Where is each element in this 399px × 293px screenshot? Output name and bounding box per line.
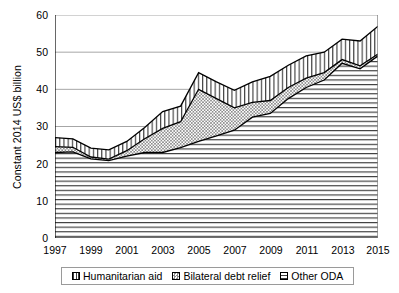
x-tick-label-2009: 2009 bbox=[251, 245, 291, 256]
x-tick-label-2003: 2003 bbox=[143, 245, 183, 256]
x-tick-label-2007: 2007 bbox=[215, 245, 255, 256]
x-tick-label-2015: 2015 bbox=[358, 245, 398, 256]
y-tick-label-50: 50 bbox=[22, 47, 48, 57]
plot-area bbox=[55, 15, 378, 238]
x-tick-label-1997: 1997 bbox=[35, 245, 75, 256]
legend-item-bilateral-debt-relief[interactable]: Bilateral debt relief bbox=[172, 271, 270, 282]
chart-figure: Constant 2014 US$ billion 60 50 40 30 20… bbox=[0, 0, 399, 293]
y-tick-label-20: 20 bbox=[22, 159, 48, 169]
chart-legend: Humanitarian aid Bilateral debt relief O… bbox=[61, 267, 354, 285]
legend-item-humanitarian-aid[interactable]: Humanitarian aid bbox=[72, 271, 162, 282]
y-tick-label-60: 60 bbox=[22, 10, 48, 20]
x-tick-label-2005: 2005 bbox=[179, 245, 219, 256]
x-tick-label-2011: 2011 bbox=[287, 245, 327, 256]
chart-canvas bbox=[55, 15, 378, 238]
vertical-lines-swatch-icon bbox=[72, 272, 80, 280]
y-tick-label-10: 10 bbox=[22, 196, 48, 206]
x-tick-label-2001: 2001 bbox=[107, 245, 147, 256]
y-tick-label-30: 30 bbox=[22, 121, 48, 131]
checker-dots-swatch-icon bbox=[172, 272, 180, 280]
y-tick-label-40: 40 bbox=[22, 84, 48, 94]
legend-label-other-oda: Other ODA bbox=[291, 271, 343, 282]
x-tick-label-2013: 2013 bbox=[323, 245, 363, 256]
legend-label-bilateral-debt-relief: Bilateral debt relief bbox=[183, 271, 270, 282]
x-tick-label-1999: 1999 bbox=[71, 245, 111, 256]
horizontal-lines-swatch-icon bbox=[280, 272, 288, 280]
legend-label-humanitarian-aid: Humanitarian aid bbox=[83, 271, 162, 282]
legend-item-other-oda[interactable]: Other ODA bbox=[280, 271, 343, 282]
y-tick-label-0: 0 bbox=[22, 233, 48, 243]
